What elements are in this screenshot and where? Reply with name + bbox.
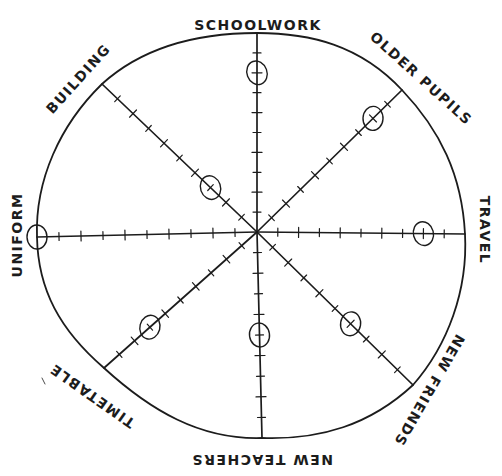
axis-label-travel: TRAVEL (477, 196, 493, 265)
radar-wheel-diagram: SCHOOLWORKOLDER PUPILSTRAVELNEW FRIENDSN… (0, 0, 502, 476)
stray-pencil-mark (42, 378, 45, 384)
axis-labels-group: SCHOOLWORKOLDER PUPILSTRAVELNEW FRIENDSN… (9, 17, 493, 468)
axis-label-schoolwork: SCHOOLWORK (194, 17, 322, 33)
axis-label-new-friends: NEW FRIENDS (391, 332, 468, 450)
value-markers-group (27, 58, 436, 348)
axis-label-timetable: TIMETABLE (46, 361, 137, 432)
axis-label-uniform: UNIFORM (9, 193, 25, 278)
axis-label-new-teachers: NEW TEACHERS (191, 452, 333, 468)
axes-group (37, 33, 465, 438)
axis-label-building: BUILDING (43, 41, 114, 117)
